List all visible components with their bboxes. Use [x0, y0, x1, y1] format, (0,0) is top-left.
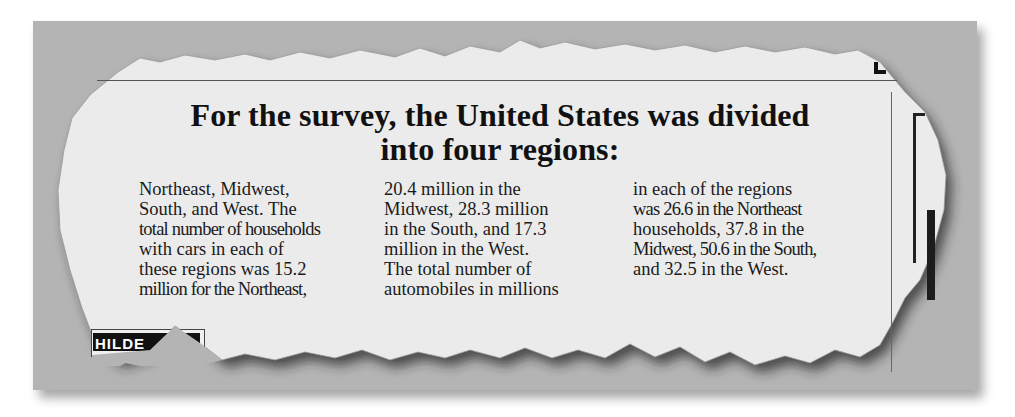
torn-overlap-mask — [0, 0, 1015, 417]
